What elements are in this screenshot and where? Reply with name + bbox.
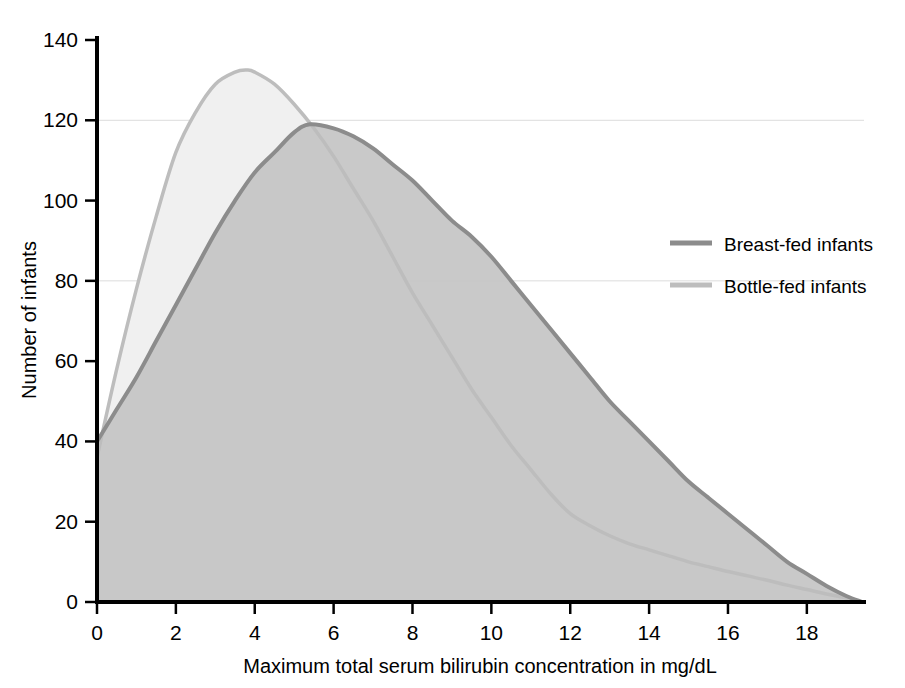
x-axis-title: Maximum total serum bilirubin concentrat… [243,655,717,677]
x-tick-label-0: 0 [91,621,103,644]
y-tick-label-100: 100 [43,189,78,212]
legend-label-0: Breast-fed infants [724,234,873,255]
x-tick-label-12: 12 [559,621,582,644]
legend-label-1: Bottle-fed infants [724,276,867,297]
x-tick-label-2: 2 [170,621,182,644]
y-tick-label-60: 60 [55,349,78,372]
y-tick-label-0: 0 [66,590,78,613]
y-tick-label-20: 20 [55,510,78,533]
chart-container: 020406080100120140 024681012141618 Maxim… [0,0,905,688]
y-tick-label-80: 80 [55,269,78,292]
bilirubin-distribution-chart: 020406080100120140 024681012141618 Maxim… [0,0,905,688]
y-tick-label-140: 140 [43,28,78,51]
y-tick-label-40: 40 [55,429,78,452]
x-tick-label-10: 10 [480,621,503,644]
x-tick-label-16: 16 [716,621,739,644]
x-tick-label-4: 4 [249,621,261,644]
x-tick-label-14: 14 [637,621,661,644]
x-tick-label-18: 18 [795,621,818,644]
x-tick-label-6: 6 [328,621,340,644]
y-tick-label-120: 120 [43,108,78,131]
y-axis-title: Number of infants [18,241,40,399]
x-tick-label-8: 8 [407,621,419,644]
